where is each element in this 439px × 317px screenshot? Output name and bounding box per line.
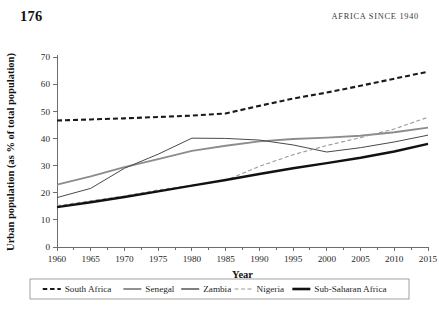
legend-label-sub-saharan-africa: Sub-Saharan Africa xyxy=(314,284,386,294)
series-line-nigeria xyxy=(57,117,428,205)
x-axis-tick-label: 1985 xyxy=(216,254,235,264)
x-axis-tick-label: 2000 xyxy=(318,254,337,264)
x-axis-tick-label: 1960 xyxy=(48,254,67,264)
running-head: 176 AFRICA SINCE 1940 xyxy=(0,8,439,28)
x-axis-tick-label: 2010 xyxy=(385,254,404,264)
x-axis-title: Year xyxy=(232,269,253,280)
x-axis-tick-label: 1980 xyxy=(183,254,202,264)
y-axis-title: Urban population (as % of total populati… xyxy=(5,53,17,251)
x-axis-tick-label: 1995 xyxy=(284,254,303,264)
x-axis-tick-label: 1970 xyxy=(115,254,134,264)
legend-label-south-africa: South Africa xyxy=(65,284,112,294)
y-axis-tick-label: 30 xyxy=(41,161,51,171)
x-axis-tick-label: 2005 xyxy=(351,254,370,264)
legend-label-senegal: Senegal xyxy=(145,284,175,294)
legend-label-zambia: Zambia xyxy=(203,284,231,294)
y-axis-tick-label: 50 xyxy=(41,107,51,117)
x-axis-tick-label: 1990 xyxy=(250,254,269,264)
page-canvas: 176 AFRICA SINCE 1940 010203040506070196… xyxy=(0,0,439,317)
book-title: AFRICA SINCE 1940 xyxy=(332,12,419,21)
x-axis-tick-label: 1975 xyxy=(149,254,168,264)
figure-container: 0102030405060701960196519701975198019851… xyxy=(0,40,439,317)
y-axis-tick-label: 60 xyxy=(41,79,51,89)
y-axis-tick-label: 10 xyxy=(41,215,51,225)
line-chart: 0102030405060701960196519701975198019851… xyxy=(0,40,439,317)
x-axis-tick-label: 1965 xyxy=(82,254,101,264)
y-axis-tick-label: 0 xyxy=(45,242,50,252)
y-axis-tick-label: 20 xyxy=(41,188,51,198)
y-axis-tick-label: 70 xyxy=(41,52,51,62)
series-line-south-africa xyxy=(57,72,428,121)
x-axis-tick-label: 2015 xyxy=(419,254,438,264)
y-axis-tick-label: 40 xyxy=(41,134,51,144)
page-number: 176 xyxy=(20,8,42,25)
legend-label-nigeria: Nigeria xyxy=(257,284,285,294)
